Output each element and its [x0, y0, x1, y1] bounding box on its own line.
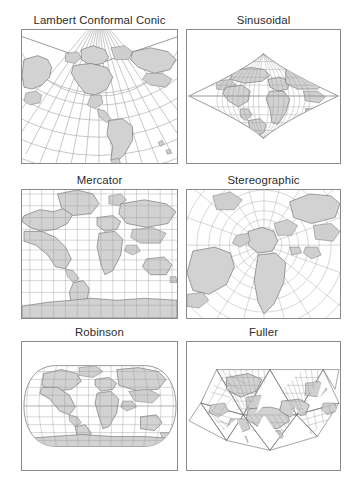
panel-title-robinson: Robinson [21, 324, 178, 340]
panel-title-mercator: Mercator [21, 172, 178, 188]
map-frame-robinson [21, 341, 178, 471]
panel-lambert-conformal-conic: Lambert Conformal Conic [21, 12, 178, 164]
panel-title-fuller: Fuller [186, 324, 341, 340]
map-projection-figure: Lambert Conformal Conic [0, 0, 361, 484]
map-frame-mercator [21, 189, 178, 319]
panel-title-stereographic: Stereographic [186, 172, 341, 188]
map-frame-lambert-conformal-conic [21, 29, 178, 164]
map-frame-fuller [186, 341, 341, 471]
map-frame-sinusoidal [186, 29, 341, 164]
map-frame-stereographic [186, 189, 341, 319]
panel-title-sinusoidal: Sinusoidal [186, 12, 341, 28]
map-fuller [187, 342, 340, 470]
map-sinusoidal [187, 30, 340, 163]
map-mercator [22, 190, 177, 318]
panel-mercator: Mercator [21, 172, 178, 319]
panel-title-lambert-conformal-conic: Lambert Conformal Conic [21, 12, 178, 28]
map-lambert-conformal-conic [22, 30, 177, 163]
panel-stereographic: Stereographic [186, 172, 341, 319]
map-stereographic [187, 190, 340, 318]
panel-sinusoidal: Sinusoidal [186, 12, 341, 164]
map-robinson [22, 342, 177, 470]
panel-fuller: Fuller [186, 324, 341, 471]
panel-robinson: Robinson [21, 324, 178, 471]
